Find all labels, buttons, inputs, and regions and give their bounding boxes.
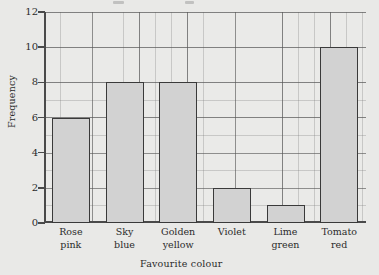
x-axis-tick-label-line: Tomato	[305, 226, 373, 239]
minor-gridlines	[44, 12, 366, 223]
y-axis-tick-label: 0	[16, 218, 38, 228]
bar	[213, 188, 251, 223]
bar	[106, 82, 144, 223]
bar	[52, 118, 90, 224]
cropped-title-artifact-left	[113, 1, 124, 4]
bar-chart-figure: 024681012 RosepinkSkyblueGoldenyellowVio…	[0, 0, 379, 275]
cropped-title-artifact-right	[185, 1, 194, 4]
y-axis-tick	[38, 222, 45, 224]
y-axis-tick-label: 4	[16, 148, 38, 158]
y-axis-tick-label: 10	[16, 42, 38, 52]
y-axis-title: Frequency	[6, 67, 17, 137]
y-axis-tick	[38, 11, 45, 13]
x-axis-tick-label: Tomatored	[305, 226, 373, 251]
x-axis-line	[44, 221, 366, 223]
x-axis-tick-label-line: yellow	[144, 239, 212, 252]
plot-area	[44, 12, 366, 223]
y-axis-tick-label: 8	[16, 77, 38, 87]
y-axis-tick-label: 6	[16, 113, 38, 123]
y-axis-tick-label: 12	[16, 7, 38, 17]
bar	[267, 205, 305, 223]
bar	[159, 82, 197, 223]
y-axis-tick	[38, 46, 45, 48]
y-axis-tick	[38, 82, 45, 84]
y-axis-tick	[38, 117, 45, 119]
x-axis-tick-label-line: red	[305, 239, 373, 252]
bar	[320, 47, 358, 223]
x-axis-title: Favourite colour	[140, 258, 223, 269]
y-axis-tick	[38, 187, 45, 189]
y-axis-tick	[38, 152, 45, 154]
y-axis-tick-label: 2	[16, 183, 38, 193]
major-gridlines	[44, 12, 366, 223]
